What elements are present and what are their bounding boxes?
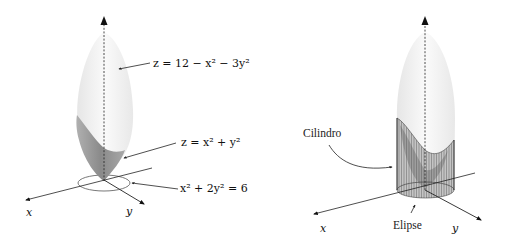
annotation-arrow xyxy=(124,143,176,158)
left-panel: x y z = 12 − x² − 3y² z = x² + y² x² + 2… xyxy=(26,16,250,219)
x-axis-label: x xyxy=(320,222,327,235)
z-axis-arrowhead-icon xyxy=(101,16,108,25)
label-ellipse: Elipse xyxy=(393,219,422,232)
right-panel: x y Cilindro Elipse xyxy=(303,16,481,235)
y-axis xyxy=(425,190,481,220)
label-upper-surface: z = 12 − x² − 3y² xyxy=(153,57,250,70)
z-axis-arrowhead-icon xyxy=(422,16,429,25)
annotation-arrow xyxy=(132,183,178,189)
y-axis-label: y xyxy=(125,205,133,218)
label-cylinder: Cilindro xyxy=(303,127,342,139)
figure: x y z = 12 − x² − 3y² z = x² + y² x² + 2… xyxy=(0,0,507,250)
y-axis-label: y xyxy=(451,222,459,235)
annotation-arrow xyxy=(411,205,415,213)
label-lower-surface: z = x² + y² xyxy=(181,136,240,149)
x-axis-label: x xyxy=(26,206,33,219)
annotation-arrow xyxy=(329,145,392,168)
x-axis xyxy=(26,168,152,200)
label-base-ellipse: x² + 2y² = 6 xyxy=(180,182,248,195)
